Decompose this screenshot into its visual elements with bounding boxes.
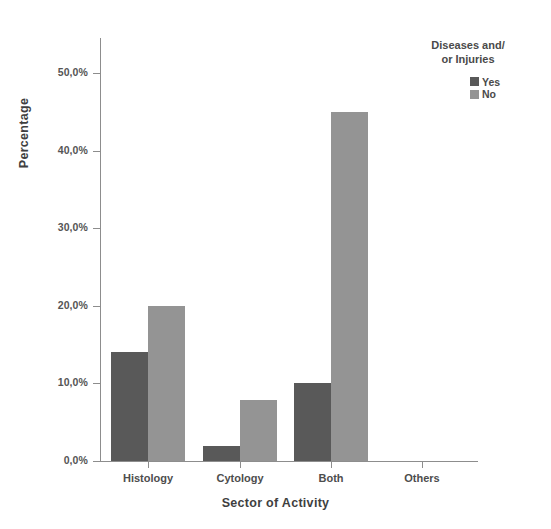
legend: Diseases and/ or Injuries YesNo [398, 38, 538, 102]
x-tick-label: Others [362, 472, 482, 484]
legend-title: Diseases and/ or Injuries [398, 38, 538, 67]
x-tick-mark [331, 461, 332, 468]
y-tick-label: 0,0% [0, 454, 88, 466]
y-tick-label: 40,0% [0, 144, 88, 156]
bar [331, 112, 368, 461]
bar [148, 306, 185, 461]
bar [203, 446, 240, 461]
legend-entries: YesNo [398, 77, 538, 100]
y-axis-line [100, 38, 101, 462]
bar [111, 352, 148, 461]
y-tick-mark [93, 73, 100, 74]
x-tick-mark [148, 461, 149, 468]
bar [240, 400, 277, 461]
bar-chart: 0,0%10,0%20,0%30,0%40,0%50,0% HistologyC… [0, 0, 551, 529]
legend-swatch [470, 90, 479, 99]
bar [294, 383, 331, 461]
y-tick-mark [93, 306, 100, 307]
y-tick-mark [93, 383, 100, 384]
x-tick-mark [422, 461, 423, 468]
legend-swatch [470, 77, 479, 86]
legend-label: No [482, 89, 496, 100]
y-tick-label: 10,0% [0, 376, 88, 388]
y-tick-mark [93, 151, 100, 152]
legend-label: Yes [482, 77, 500, 88]
y-tick-label: 20,0% [0, 299, 88, 311]
x-axis-title: Sector of Activity [0, 496, 551, 510]
x-tick-mark [240, 461, 241, 468]
y-tick-label: 30,0% [0, 221, 88, 233]
y-tick-label: 50,0% [0, 66, 88, 78]
y-axis-title: Percentage [17, 68, 31, 198]
legend-entry: Yes [470, 77, 538, 88]
y-tick-mark [93, 228, 100, 229]
y-tick-mark [93, 461, 100, 462]
legend-entry: No [470, 89, 538, 100]
